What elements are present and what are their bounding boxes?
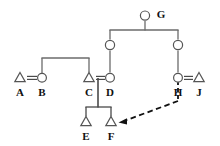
- person-label-h: H: [172, 87, 184, 98]
- person-label-j: J: [193, 87, 205, 98]
- person-label-b: B: [36, 87, 48, 98]
- person-symbol-unnamed-parent-1[interactable]: [105, 40, 114, 49]
- person-symbol-f[interactable]: [106, 117, 116, 126]
- person-label-d: D: [104, 87, 116, 98]
- person-label-c: C: [83, 87, 95, 98]
- person-symbol-unnamed-parent-2[interactable]: [173, 40, 182, 49]
- person-label-f: F: [105, 131, 117, 142]
- person-symbol-g[interactable]: [140, 11, 149, 20]
- person-symbol-b[interactable]: [38, 73, 47, 82]
- person-label-g: G: [155, 9, 167, 20]
- person-label-e: E: [80, 131, 92, 142]
- person-label-a: A: [14, 87, 26, 98]
- kinship-diagram: A B C D E F G H J: [0, 0, 220, 146]
- adoption-link-arrowhead: [119, 118, 128, 124]
- person-symbol-e[interactable]: [81, 117, 91, 126]
- descent-links: [41, 21, 178, 117]
- adoption-link-diagonal-segment: [124, 101, 178, 121]
- adoption-link-h-j-to-f: [119, 81, 179, 125]
- person-symbol-d[interactable]: [106, 73, 115, 82]
- person-symbol-c[interactable]: [84, 73, 94, 82]
- person-symbol-h[interactable]: [174, 73, 183, 82]
- person-symbol-a[interactable]: [15, 73, 25, 82]
- kinship-diagram-canvas: [0, 0, 220, 146]
- person-symbol-j[interactable]: [194, 73, 204, 82]
